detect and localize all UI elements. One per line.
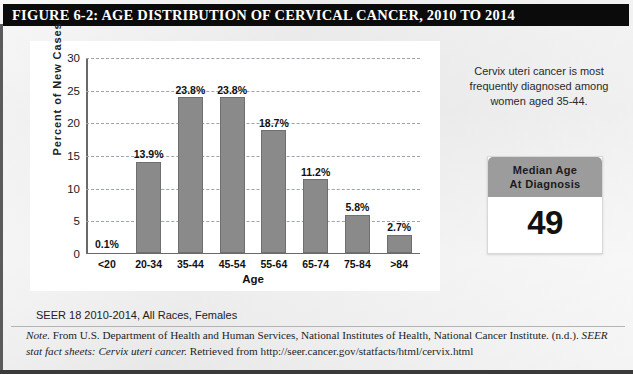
source-line: SEER 18 2010-2014, All Races, Females bbox=[36, 309, 237, 321]
y-tick-label: 0 bbox=[74, 248, 80, 260]
gridline bbox=[86, 91, 420, 92]
bar-value-label: 2.7% bbox=[387, 221, 411, 233]
note-text-2: Retrieved from http://seer.cancer.gov/st… bbox=[187, 345, 473, 357]
y-tick-label: 20 bbox=[67, 117, 80, 129]
caption-divider bbox=[11, 326, 625, 327]
x-tick-label: <20 bbox=[98, 258, 116, 270]
bar bbox=[303, 179, 328, 252]
y-tick-label: 5 bbox=[74, 215, 80, 227]
bar bbox=[136, 162, 161, 253]
gridline bbox=[86, 123, 420, 124]
bar-value-label: 13.9% bbox=[134, 148, 164, 160]
x-tick-label: 20-34 bbox=[135, 258, 162, 270]
y-tick-label: 30 bbox=[67, 52, 80, 64]
bar-value-label: 18.7% bbox=[259, 117, 289, 129]
figure-title: FIGURE 6-2: AGE DISTRIBUTION OF CERVICAL… bbox=[3, 7, 515, 24]
figure-page: FIGURE 6-2: AGE DISTRIBUTION OF CERVICAL… bbox=[0, 0, 633, 374]
median-age-value: 49 bbox=[488, 197, 602, 253]
x-tick-label: >84 bbox=[390, 258, 408, 270]
chart-panel: Percent of New Cases 051015202530 0.1%13… bbox=[30, 41, 440, 291]
figure-title-bar: FIGURE 6-2: AGE DISTRIBUTION OF CERVICAL… bbox=[3, 4, 629, 26]
plot-area: 051015202530 0.1%13.9%23.8%23.8%18.7%11.… bbox=[86, 58, 420, 254]
bar-value-label: 11.2% bbox=[301, 166, 330, 178]
page-bottom-edge bbox=[0, 370, 633, 374]
x-tick-label: 35-44 bbox=[177, 258, 204, 270]
bar-value-label: 0.1% bbox=[95, 238, 119, 250]
bar bbox=[261, 130, 286, 252]
median-age-header-line2: At Diagnosis bbox=[490, 177, 600, 191]
y-tick-label: 25 bbox=[67, 85, 80, 97]
y-axis-title: Percent of New Cases bbox=[51, 4, 63, 174]
note-label: Note. bbox=[26, 329, 50, 341]
x-axis-line bbox=[86, 253, 420, 255]
figure-note: Note. From U.S. Department of Health and… bbox=[26, 328, 622, 359]
figure-body: Percent of New Cases 051015202530 0.1%13… bbox=[3, 26, 629, 298]
median-age-header: Median Age At Diagnosis bbox=[488, 157, 602, 197]
x-tick-label: 65-74 bbox=[302, 258, 329, 270]
x-tick-label: 75-84 bbox=[344, 258, 371, 270]
gridline bbox=[86, 58, 420, 59]
y-tick-label: 15 bbox=[67, 150, 80, 162]
note-italic-2: Cervix uteri cancer. bbox=[98, 345, 187, 357]
bar-value-label: 23.8% bbox=[175, 84, 205, 96]
y-tick-label: 10 bbox=[67, 183, 80, 195]
x-axis-title: Age bbox=[86, 273, 420, 285]
bar bbox=[387, 235, 412, 253]
bar bbox=[178, 97, 203, 252]
bar-value-label: 5.8% bbox=[345, 201, 369, 213]
side-panel-description: Cervix uteri cancer is most frequently d… bbox=[455, 64, 623, 109]
x-tick-label: 55-64 bbox=[260, 258, 287, 270]
bar bbox=[345, 215, 370, 253]
bar-value-label: 23.8% bbox=[217, 84, 247, 96]
bar bbox=[220, 97, 245, 252]
median-age-box: Median Age At Diagnosis 49 bbox=[487, 156, 603, 254]
x-tick-label: 45-54 bbox=[219, 258, 246, 270]
note-text-1: From U.S. Department of Health and Human… bbox=[50, 329, 582, 341]
median-age-header-line1: Median Age bbox=[490, 163, 600, 177]
